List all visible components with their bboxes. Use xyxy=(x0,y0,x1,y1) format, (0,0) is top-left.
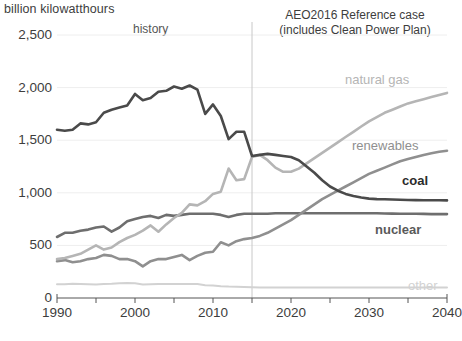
chart-container: billion kilowatthours history AEO2016 Re… xyxy=(0,0,459,341)
chart-plot xyxy=(0,0,459,341)
